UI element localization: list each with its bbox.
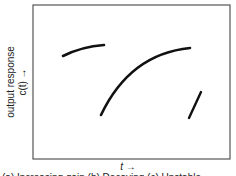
response-curve-2: [101, 48, 190, 115]
x-axis-label: t →: [120, 161, 136, 172]
y-label-line1: output response: [5, 46, 16, 118]
y-label-line2: c(t) →: [17, 68, 28, 95]
response-curve-3: [189, 92, 201, 118]
caption-fragment: (a) Increasing gain (b) Decaying (c) Uns…: [2, 172, 201, 176]
response-curve-1: [63, 45, 104, 56]
y-axis-symbol: c(t) →: [17, 68, 28, 95]
response-plot: output response c(t) → t → (a) Increasin…: [0, 0, 236, 176]
y-axis-label: output response: [5, 46, 16, 118]
plot-frame: [33, 5, 230, 159]
